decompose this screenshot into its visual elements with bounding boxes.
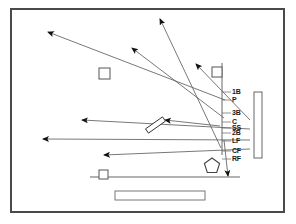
trajectory-arrow — [43, 139, 250, 140]
trajectory-arrow — [160, 19, 221, 148]
home-plate-pentagon — [204, 158, 219, 173]
position-label-cf: CF — [232, 147, 241, 154]
label-connector-group — [222, 92, 231, 159]
position-label-3b: 3B — [232, 109, 241, 116]
diagram-stage: 1BP3BCSS2BLFCFRF — [0, 0, 296, 224]
trajectory-arrow — [104, 149, 250, 155]
position-label-p: P — [232, 96, 236, 103]
base-square-left — [99, 68, 110, 79]
diagram-canvas — [0, 0, 296, 224]
base-square-home — [99, 170, 108, 179]
base-square-right — [212, 67, 222, 77]
position-label-2b: 2B — [232, 129, 241, 136]
trajectory-group — [43, 19, 250, 176]
position-label-1b: 1B — [232, 88, 241, 95]
position-label-rf: RF — [232, 155, 241, 162]
position-label-lf: LF — [232, 137, 240, 144]
legend-bar — [254, 92, 262, 158]
trajectory-arrow — [224, 140, 228, 176]
bat-shape — [146, 117, 166, 133]
dugout-bar — [115, 191, 205, 200]
trajectory-arrow — [132, 48, 224, 118]
